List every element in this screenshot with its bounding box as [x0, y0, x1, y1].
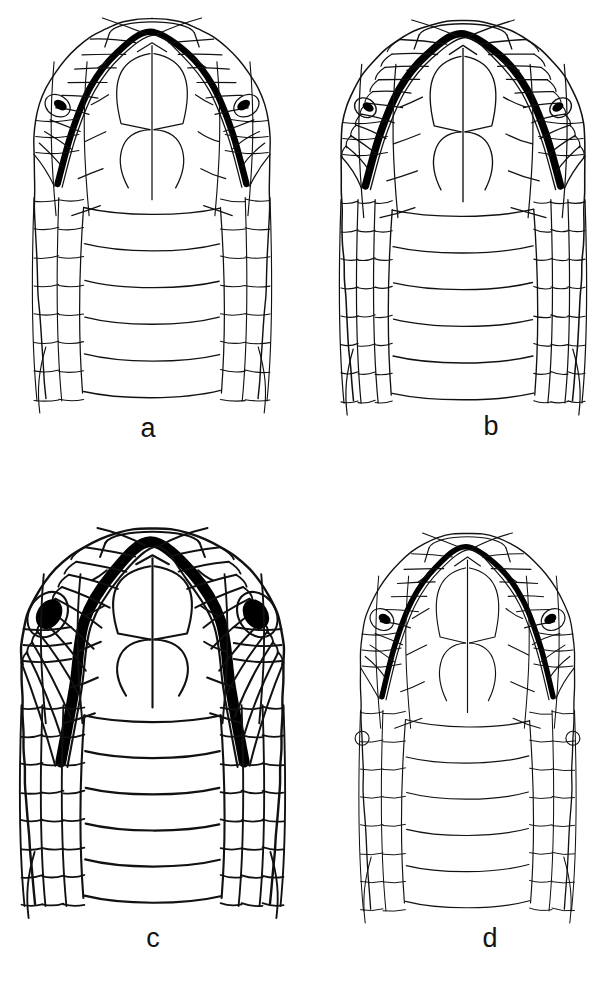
- panel-a: [12, 10, 292, 405]
- panel-label-c: c: [133, 925, 173, 952]
- panel-b: [318, 12, 608, 407]
- snake-head-ventral-b: [318, 12, 608, 407]
- snake-head-ventral-c: [10, 520, 295, 910]
- snake-head-ventral-a: [12, 10, 292, 405]
- panel-d: [330, 525, 605, 915]
- panel-label-d: d: [470, 925, 510, 952]
- figure-plate: a b c d: [0, 0, 608, 996]
- panel-label-a: a: [128, 415, 168, 442]
- panel-c: [10, 520, 295, 910]
- panel-label-b: b: [471, 413, 511, 440]
- snake-head-ventral-d: [330, 525, 605, 915]
